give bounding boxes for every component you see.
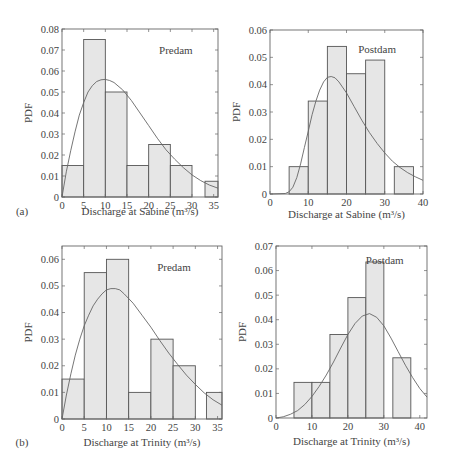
y-tick-label: 0.01 bbox=[249, 161, 267, 172]
y-tick-label: 0.02 bbox=[41, 150, 59, 161]
chart-panel-b-postdam: 01020304000.010.020.030.040.050.060.07PD… bbox=[236, 241, 427, 449]
y-tick-label: 0.03 bbox=[41, 129, 59, 140]
histogram-bar bbox=[84, 40, 106, 198]
x-axis-label: Discharge at Trinity (m³/s) bbox=[293, 435, 410, 448]
x-tick-label: 10 bbox=[101, 422, 112, 433]
histogram-bars bbox=[289, 46, 413, 194]
chart-panel-a-postdam: 01020304000.010.020.030.040.050.06PDFDis… bbox=[230, 25, 428, 222]
y-tick-label: 0.03 bbox=[249, 107, 267, 118]
y-tick-label: 0.06 bbox=[249, 25, 267, 36]
series-annotation: Predam bbox=[157, 261, 191, 273]
histogram-bar bbox=[127, 166, 149, 198]
x-tick-label: 40 bbox=[415, 421, 426, 432]
y-axis-label: PDF bbox=[22, 103, 34, 123]
y-tick-label: 0.04 bbox=[249, 79, 268, 90]
x-tick-label: 0 bbox=[59, 422, 64, 433]
x-tick-label: 40 bbox=[418, 197, 429, 208]
y-tick-label: 0.05 bbox=[255, 290, 273, 301]
histogram-bar bbox=[129, 392, 151, 419]
x-tick-label: 5 bbox=[82, 422, 87, 433]
y-tick-label: 0.03 bbox=[41, 334, 59, 345]
y-axis-label: PDF bbox=[230, 102, 242, 122]
x-tick-label: 20 bbox=[146, 422, 157, 433]
x-tick-label: 20 bbox=[341, 197, 352, 208]
histogram-bar bbox=[62, 166, 84, 198]
y-tick-label: 0.06 bbox=[41, 66, 59, 77]
histogram-bar bbox=[151, 339, 173, 419]
y-tick-label: 0.05 bbox=[41, 280, 59, 291]
series-annotation: Predam bbox=[159, 44, 193, 56]
histogram-bar bbox=[327, 46, 346, 194]
histogram-bar bbox=[330, 334, 348, 418]
y-tick-label: 0 bbox=[54, 192, 59, 203]
x-tick-label: 30 bbox=[379, 421, 390, 432]
y-tick-label: 0.07 bbox=[255, 241, 273, 252]
x-tick-label: 0 bbox=[59, 200, 64, 211]
y-tick-label: 0.02 bbox=[255, 363, 273, 374]
x-axis-label: Discharge at Sabine (m³/s) bbox=[288, 208, 405, 221]
histogram-bar bbox=[84, 273, 106, 419]
x-tick-label: 0 bbox=[267, 197, 272, 208]
y-tick-label: 0.08 bbox=[41, 24, 59, 35]
y-tick-label: 0 bbox=[262, 189, 267, 200]
figure-caption-cutoff bbox=[0, 466, 449, 474]
x-tick-label: 10 bbox=[303, 197, 314, 208]
y-tick-label: 0.05 bbox=[249, 52, 267, 63]
x-tick-label: 35 bbox=[212, 422, 223, 433]
y-tick-label: 0.01 bbox=[255, 388, 273, 399]
histogram-bar bbox=[308, 101, 327, 194]
series-annotation: Postdam bbox=[358, 43, 396, 55]
series-annotation: Postdam bbox=[366, 254, 404, 266]
panel-label: (a) bbox=[16, 205, 29, 218]
histogram-bar bbox=[170, 166, 192, 198]
x-axis-label: Discharge at Sabine (m³/s) bbox=[81, 205, 198, 218]
y-tick-label: 0.07 bbox=[41, 45, 59, 56]
y-axis-label: PDF bbox=[236, 322, 248, 342]
y-tick-label: 0.03 bbox=[255, 339, 273, 350]
x-tick-label: 35 bbox=[208, 200, 219, 211]
x-axis-label: Discharge at Trinity (m³/s) bbox=[83, 436, 200, 449]
y-tick-label: 0 bbox=[54, 414, 59, 425]
y-tick-label: 0.06 bbox=[41, 254, 59, 265]
x-tick-label: 30 bbox=[380, 197, 391, 208]
y-tick-label: 0.06 bbox=[255, 265, 273, 276]
histogram-bar bbox=[149, 145, 171, 198]
histogram-bars bbox=[62, 40, 218, 198]
x-tick-label: 10 bbox=[307, 421, 318, 432]
y-tick-label: 0.05 bbox=[41, 87, 59, 98]
x-tick-label: 25 bbox=[168, 422, 179, 433]
y-tick-label: 0.04 bbox=[255, 314, 274, 325]
histogram-bar bbox=[393, 358, 411, 418]
x-tick-label: 30 bbox=[190, 422, 201, 433]
y-tick-label: 0.04 bbox=[41, 108, 60, 119]
chart-panel-b-predam: 0510152025303500.010.020.030.040.050.06P… bbox=[16, 246, 223, 449]
histogram-bar bbox=[347, 74, 366, 194]
histogram-bars bbox=[62, 259, 222, 419]
y-tick-label: 0.02 bbox=[41, 360, 59, 371]
histogram-bar bbox=[312, 382, 330, 418]
x-tick-label: 0 bbox=[273, 421, 278, 432]
x-tick-label: 15 bbox=[123, 422, 134, 433]
y-tick-label: 0.02 bbox=[249, 134, 267, 145]
chart-panel-a-predam: 0510152025303500.010.020.030.040.050.060… bbox=[16, 24, 219, 219]
panel-label: (b) bbox=[16, 436, 29, 449]
histogram-bar bbox=[105, 92, 127, 197]
histogram-bar bbox=[366, 262, 384, 418]
y-tick-label: 0.01 bbox=[41, 171, 59, 182]
histogram-bars bbox=[294, 262, 411, 418]
histogram-bar bbox=[394, 167, 413, 194]
histogram-bar bbox=[366, 60, 385, 194]
x-tick-label: 20 bbox=[343, 421, 354, 432]
y-tick-label: 0 bbox=[268, 413, 273, 424]
histogram-bar bbox=[294, 382, 312, 418]
y-axis-label: PDF bbox=[22, 322, 34, 342]
histogram-bar bbox=[173, 366, 195, 419]
figure: 0510152025303500.010.020.030.040.050.060… bbox=[0, 0, 449, 474]
y-tick-label: 0.01 bbox=[41, 387, 59, 398]
histogram-bar bbox=[106, 259, 128, 419]
y-tick-label: 0.04 bbox=[41, 307, 60, 318]
